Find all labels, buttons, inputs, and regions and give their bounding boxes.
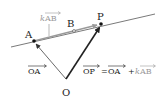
vector-line-diagram: A B P O k AB OA OP = OA + k AB [0, 0, 163, 101]
eq-lhs: OP [83, 67, 96, 76]
label-P: P [97, 11, 104, 22]
label-A: A [24, 29, 33, 40]
point-P [99, 22, 103, 26]
point-B [73, 30, 76, 33]
vector-OA [36, 44, 66, 79]
kab-vec: AB [44, 14, 57, 23]
label-O: O [62, 87, 70, 98]
point-A [32, 39, 36, 43]
label-B: B [67, 18, 74, 29]
eq-term2: AB [139, 67, 152, 76]
oa-vec: OA [28, 67, 41, 76]
eq-term1: OA [108, 67, 121, 76]
eq-equals: = [101, 67, 108, 76]
equation: OP = OA + k AB [83, 65, 156, 77]
eq-plus: + [128, 67, 135, 76]
kab-label: k AB [40, 12, 61, 24]
oa-label: OA [28, 65, 47, 77]
vector-kAB [34, 25, 97, 41]
